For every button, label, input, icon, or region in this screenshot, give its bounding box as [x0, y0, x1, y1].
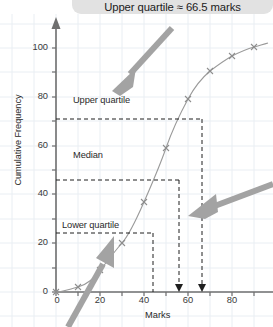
upper-quartile-label: Upper quartile	[73, 95, 130, 105]
grid-lines	[0, 14, 273, 327]
x-tick-label-80: 80	[219, 295, 245, 305]
y-tick-label-80: 80	[22, 91, 48, 101]
upper-quartile-banner: Upper quartile ≈ 66.5 marks	[72, 0, 273, 14]
x-tick-label-40: 40	[131, 295, 157, 305]
upper-quartile-axis-triangle-marker	[198, 284, 206, 292]
cumulative-frequency-curve	[56, 43, 268, 292]
y-tick-label-40: 40	[22, 188, 48, 198]
y-tick-label-60: 60	[22, 140, 48, 150]
median-axis-triangle-marker	[175, 284, 183, 292]
x-tick-label-0: 0	[44, 295, 70, 305]
median-dashed-lines	[56, 180, 179, 288]
arrow-to-upper-quartile	[112, 28, 172, 96]
banner-text: Upper quartile ≈ 66.5 marks	[104, 1, 241, 13]
y-axis-title: Cumulative Frequency	[13, 90, 23, 190]
annotation-arrows	[68, 28, 273, 327]
lower-quartile-label: Lower quartile	[62, 220, 119, 230]
cumulative-frequency-chart: Upper quartile ≈ 66.5 marks Upper quarti…	[0, 0, 273, 327]
x-tick-label-60: 60	[175, 295, 201, 305]
y-tick-label-100: 100	[22, 42, 48, 52]
x-axis-title: Marks	[145, 310, 170, 320]
y-axis-arrowhead	[52, 17, 61, 29]
arrow-to-median	[188, 184, 273, 219]
x-tick-label-20: 20	[87, 295, 113, 305]
median-label: Median	[73, 150, 103, 160]
y-tick-label-20: 20	[22, 237, 48, 247]
arrow-to-lower-quartile	[68, 236, 114, 327]
